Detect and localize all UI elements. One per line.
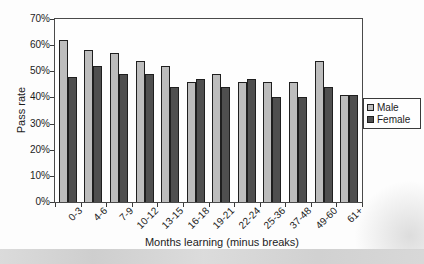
x-tick-mark: [234, 203, 235, 207]
bar-male-37-48: [289, 82, 298, 202]
bar-female-22-24: [247, 79, 256, 202]
bar-male-16-18: [187, 82, 196, 202]
bar-male-13-15: [161, 66, 170, 202]
y-axis-title: Pass rate: [15, 87, 27, 133]
bar-male-0-3: [59, 40, 68, 202]
legend: MaleFemale: [363, 98, 421, 129]
x-category-label: 49-60: [314, 205, 340, 231]
bar-female-7-9: [119, 74, 128, 202]
bar-female-16-18: [196, 79, 205, 202]
x-tick-mark: [285, 203, 286, 207]
bar-male-49-60: [315, 61, 324, 202]
bar-female-19-21: [221, 87, 230, 202]
bar-male-25-36: [263, 82, 272, 202]
y-tick-label: 70%: [30, 13, 50, 25]
bar-female-25-36: [272, 97, 281, 202]
x-category-label: 37-48: [288, 205, 314, 231]
x-category-label: 22-24: [237, 205, 263, 231]
y-tick-mark: [50, 97, 54, 98]
legend-label-female: Female: [377, 114, 410, 125]
x-axis-title: Months learning (minus breaks): [145, 236, 299, 248]
x-tick-mark: [311, 203, 312, 207]
y-tick-mark: [50, 19, 54, 20]
x-tick-mark: [55, 203, 56, 207]
y-tick-mark: [50, 45, 54, 46]
y-tick-label: 0%: [36, 196, 50, 208]
bar-male-10-12: [136, 61, 145, 202]
x-tick-mark: [106, 203, 107, 207]
bar-male-61+: [340, 95, 349, 202]
bar-female-37-48: [298, 97, 307, 202]
legend-item-female: Female: [367, 114, 417, 125]
y-tick-label: 10%: [30, 170, 50, 182]
y-tick-mark: [50, 176, 54, 177]
bar-female-13-15: [170, 87, 179, 202]
scan-texture-haze: [354, 180, 424, 250]
x-category-label: 13-15: [160, 205, 186, 231]
y-tick-label: 30%: [30, 118, 50, 130]
legend-swatch-female: [367, 116, 374, 123]
x-tick-mark: [81, 203, 82, 207]
y-tick-label: 20%: [30, 144, 50, 156]
y-tick-label: 40%: [30, 91, 50, 103]
bar-female-10-12: [145, 74, 154, 202]
bar-male-4-6: [84, 50, 93, 202]
chart-figure: Pass rate 0%10%20%30%40%50%60%70% 0-34-6…: [0, 0, 424, 264]
x-tick-mark: [336, 203, 337, 207]
y-tick-mark: [50, 202, 54, 203]
x-tick-mark: [183, 203, 184, 207]
y-tick-mark: [50, 124, 54, 125]
x-category-label: 19-21: [211, 205, 237, 231]
x-category-label: 4-6: [91, 205, 109, 223]
y-tick-mark: [50, 71, 54, 72]
y-tick-mark: [50, 150, 54, 151]
y-tick-label: 50%: [30, 65, 50, 77]
x-tick-mark: [209, 203, 210, 207]
x-category-label: 0-3: [66, 205, 84, 223]
legend-label-male: Male: [377, 102, 399, 113]
legend-swatch-male: [367, 104, 374, 111]
bar-female-0-3: [68, 77, 77, 202]
x-tick-mark: [132, 203, 133, 207]
bar-female-49-60: [324, 87, 333, 202]
plot-area: [54, 18, 363, 203]
x-tick-mark: [157, 203, 158, 207]
x-tick-mark: [260, 203, 261, 207]
x-category-label: 10-12: [135, 205, 161, 231]
x-category-label: 7-9: [117, 205, 135, 223]
x-category-label: 16-18: [186, 205, 212, 231]
y-tick-label: 60%: [30, 39, 50, 51]
bar-male-19-21: [212, 74, 221, 202]
x-category-label: 25-36: [262, 205, 288, 231]
bar-male-7-9: [110, 53, 119, 202]
legend-item-male: Male: [367, 102, 417, 113]
scan-texture-strip: [0, 249, 424, 264]
bar-female-4-6: [93, 66, 102, 202]
bar-male-22-24: [238, 82, 247, 202]
